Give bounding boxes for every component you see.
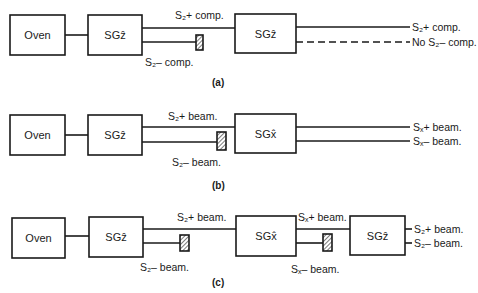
mid1-bottom-label-c: S₂– beam. xyxy=(140,261,189,273)
sg-z-label-a2: SGẑ xyxy=(235,28,296,40)
caption-c: (c) xyxy=(212,277,224,288)
out-bottom-label-b: Sₓ– beam. xyxy=(413,135,461,147)
sg-z-label-b: SGẑ xyxy=(88,129,142,141)
out-top-label-b: Sₓ+ beam. xyxy=(413,121,462,133)
sg-x-label-c: SGx̂ xyxy=(236,230,296,242)
sg-x-label-b: SGx̂ xyxy=(235,128,296,140)
caption-b: (b) xyxy=(212,180,225,191)
sg-z-label-c1: SGẑ xyxy=(89,231,143,243)
blocker-c1 xyxy=(180,235,189,251)
stern-gerlach-diagram xyxy=(0,0,478,293)
mid2-top-label-c: Sₓ+ beam. xyxy=(298,211,347,223)
mid-top-label-b: S₂+ beam. xyxy=(168,110,217,122)
mid-bottom-label-a: S₂– comp. xyxy=(145,56,193,68)
sg-z-label-a1: SGẑ xyxy=(88,29,142,41)
mid1-top-label-c: S₂+ beam. xyxy=(177,211,226,223)
blocker-a xyxy=(196,35,203,50)
out-top-label-c: S₂+ beam. xyxy=(414,223,463,235)
caption-a: (a) xyxy=(212,77,224,88)
out-top-label-a: S₂+ comp. xyxy=(412,21,461,33)
blocker-c2 xyxy=(323,234,332,251)
out-bottom-label-c: S₂– beam. xyxy=(414,237,463,249)
mid-bottom-label-b: S₂– beam. xyxy=(172,156,221,168)
oven-label-b: Oven xyxy=(10,129,65,141)
out-bottom-label-a: No S₂– comp. xyxy=(412,36,477,48)
oven-label-a: Oven xyxy=(10,29,65,41)
oven-label-c: Oven xyxy=(12,232,65,244)
mid2-bottom-label-c: Sₓ– beam. xyxy=(291,263,339,275)
blocker-b xyxy=(217,132,226,150)
sg-z-label-c2: SGẑ xyxy=(350,230,405,242)
mid-top-label-a: S₂+ comp. xyxy=(175,9,224,21)
